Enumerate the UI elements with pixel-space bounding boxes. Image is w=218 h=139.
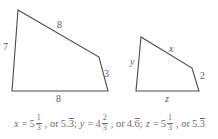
answer-y-variable: y [79, 118, 86, 129]
answer-y-or: , or [109, 118, 127, 129]
answer-line: x = 5 1 3 , or 5. 3 ; y = 4 2 3 , or 4. [0, 108, 218, 139]
label-left-side-7: 7 [3, 42, 8, 52]
answer-x-variable: x [13, 118, 20, 129]
answer-y-whole: 4 [95, 118, 100, 129]
label-right-side-2: 2 [200, 71, 205, 81]
answer-x-decimal-lead: 5. [61, 118, 69, 129]
answer-x-denominator: 3 [36, 124, 42, 132]
answer-y-decimal-lead: 4. [127, 118, 135, 129]
answer-y-equals: = [85, 118, 95, 129]
answer-expression-y: y = 4 2 3 , or 4. 6 ; [79, 115, 145, 133]
label-left-side-y: y [130, 57, 134, 67]
answer-y-fraction: 2 3 [102, 114, 108, 132]
answer-z-decimal-lead: 5. [192, 118, 200, 129]
answer-z-whole: 5 [161, 118, 166, 129]
answer-x-fraction: 1 3 [36, 114, 42, 132]
answer-z-equals: = [151, 118, 161, 129]
answer-x-numerator: 1 [36, 114, 42, 122]
label-top-side-x: x [169, 44, 173, 54]
answer-z-denominator: 3 [167, 124, 173, 132]
label-bottom-side-8: 8 [56, 94, 61, 104]
answer-z-decimal-repeat: 3 [200, 118, 205, 130]
answer-x-equals: = [20, 118, 30, 129]
answer-x-or: , or [43, 118, 61, 129]
answer-y-numerator: 2 [102, 114, 108, 122]
answer-z-or: , or [174, 118, 192, 129]
shapes-canvas [0, 0, 218, 108]
label-right-side-3: 3 [104, 69, 109, 79]
small-quadrilateral [136, 37, 199, 91]
answer-z-numerator: 1 [167, 114, 173, 122]
answer-y-denominator: 3 [102, 124, 108, 132]
answer-z-fraction: 1 3 [167, 114, 173, 132]
label-top-side-8: 8 [57, 20, 62, 30]
answer-x-whole: 5 [30, 118, 35, 129]
answer-expression-z: z = 5 1 3 , or 5. 3 [145, 115, 205, 133]
answer-expression-x: x = 5 1 3 , or 5. 3 ; [13, 115, 79, 133]
label-bottom-side-z: z [165, 94, 169, 104]
figure-container: 7 8 3 8 y x 2 z x = 5 1 3 , or 5. 3 ; y … [0, 0, 218, 139]
